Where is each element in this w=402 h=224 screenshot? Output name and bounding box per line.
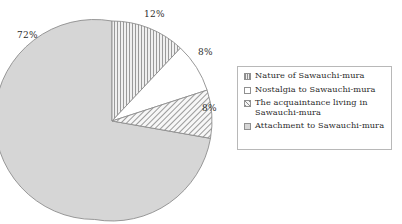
legend-items-list: Nature of Sawauchi-mura Nostalgia to Saw… (244, 71, 389, 131)
legend-label-attachment: Attachment to Sawauchi-mura (255, 121, 384, 131)
pie-label-attachment-pct: 72% (17, 30, 38, 40)
legend-label-acquaintance: The acquaintance living in Sawauchi-mura (255, 98, 389, 117)
legend-swatch-empty-icon (244, 87, 251, 94)
chart-legend: Nature of Sawauchi-mura Nostalgia to Saw… (237, 66, 392, 150)
legend-item-nostalgia: Nostalgia to Sawauchi-mura (244, 85, 389, 95)
pie-label-acquaintance-pct: 8% (202, 103, 217, 113)
pie-chart-figure: 12% 8% 8% 72% Nature of Sawauchi-mura No… (0, 0, 402, 224)
legend-swatch-vertical-lines-icon (244, 73, 251, 80)
legend-item-acquaintance: The acquaintance living in Sawauchi-mura (244, 98, 389, 117)
pie-label-nature-pct: 12% (144, 9, 165, 19)
legend-swatch-diagonal-hatch-icon (244, 100, 251, 107)
legend-item-nature: Nature of Sawauchi-mura (244, 71, 389, 81)
legend-label-nostalgia: Nostalgia to Sawauchi-mura (255, 85, 376, 95)
legend-label-nature: Nature of Sawauchi-mura (255, 71, 365, 81)
pie-chart-plot-area: 12% 8% 8% 72% (0, 0, 240, 224)
legend-swatch-solid-gray-icon (244, 123, 251, 130)
legend-item-attachment: Attachment to Sawauchi-mura (244, 121, 389, 131)
pie-label-nostalgia-pct: 8% (198, 47, 213, 57)
